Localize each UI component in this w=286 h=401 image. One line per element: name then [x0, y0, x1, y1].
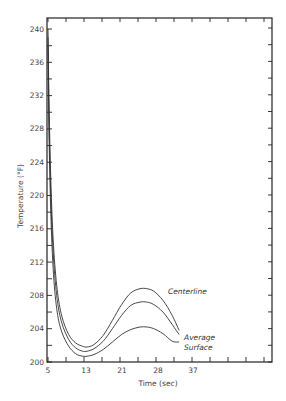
label-centerline: Centerline: [168, 287, 207, 296]
svg-text:212: 212: [30, 258, 45, 267]
series-curves: [48, 29, 179, 356]
svg-text:37: 37: [188, 366, 198, 375]
svg-text:21: 21: [117, 366, 127, 375]
svg-text:216: 216: [30, 224, 45, 233]
svg-text:220: 220: [30, 191, 45, 200]
y-axis-title: Temperature (°F): [16, 164, 25, 229]
svg-text:13: 13: [81, 366, 91, 375]
plot-frame: [47, 18, 272, 362]
y-tick-labels: 200204208212216220224228232236240: [30, 25, 45, 367]
svg-text:236: 236: [30, 58, 45, 67]
label-surface: Surface: [184, 343, 213, 352]
svg-text:228: 228: [30, 124, 45, 133]
svg-text:Temperature (°F): Temperature (°F): [16, 164, 25, 229]
svg-text:232: 232: [30, 91, 45, 100]
curve-surface: [48, 46, 179, 357]
svg-text:224: 224: [30, 158, 45, 167]
x-tick-labels: 513212837: [46, 366, 198, 375]
svg-text:200: 200: [30, 358, 45, 367]
svg-text:204: 204: [30, 324, 45, 333]
svg-text:28: 28: [153, 366, 163, 375]
axis-ticks: [47, 18, 272, 362]
svg-text:208: 208: [30, 291, 45, 300]
svg-text:5: 5: [46, 366, 51, 375]
label-average: Average: [183, 333, 216, 342]
curve-centerline: [48, 29, 179, 347]
svg-text:240: 240: [30, 25, 45, 34]
x-axis-title: Time (sec): [137, 379, 177, 388]
temperature-chart: Temperature (°F) Time (sec) 200204208212…: [0, 0, 286, 401]
svg-text:Time (sec): Time (sec): [137, 379, 177, 388]
curve-average: [48, 37, 179, 351]
